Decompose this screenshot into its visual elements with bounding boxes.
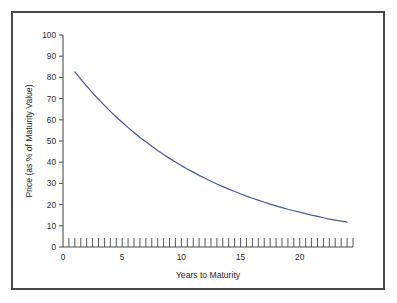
y-axis-tick-label: 80 — [47, 72, 57, 82]
x-axis-tick-label: 5 — [120, 252, 125, 262]
y-axis-tick-label: 20 — [47, 200, 57, 210]
y-axis-tick-label: 40 — [47, 157, 57, 167]
price-curve — [75, 72, 347, 222]
x-axis-tick-label: 0 — [61, 252, 66, 262]
x-axis-tick-label: 10 — [177, 252, 187, 262]
y-axis-tick-label: 70 — [47, 94, 57, 104]
y-axis-tick-label: 0 — [51, 242, 56, 252]
y-axis-tick-label: 60 — [47, 115, 57, 125]
y-axis-tick-label: 30 — [47, 178, 57, 188]
x-axis-tick-label: 20 — [295, 252, 305, 262]
y-axis-tick-label: 90 — [47, 51, 57, 61]
x-axis-title: Years to Maturity — [176, 270, 241, 280]
y-axis-tick-label: 100 — [42, 30, 56, 40]
bond-price-chart: 010203040506070809010005101520Years to M… — [13, 13, 387, 292]
figure-frame: 010203040506070809010005101520Years to M… — [11, 11, 385, 290]
y-axis-title: Price (as % of Maturity Value) — [24, 84, 34, 197]
x-axis-tick-label: 15 — [236, 252, 246, 262]
y-axis-tick-label: 10 — [47, 221, 57, 231]
y-axis-tick-label: 50 — [47, 136, 57, 146]
